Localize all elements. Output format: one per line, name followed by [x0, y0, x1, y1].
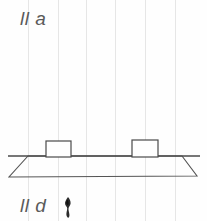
left-block	[46, 141, 71, 157]
technical-sketch	[0, 0, 207, 221]
platform-trapezoid	[9, 156, 197, 177]
label-top-left: ll a	[20, 8, 46, 30]
label-bottom-left: ll d	[20, 195, 46, 217]
right-block	[132, 140, 158, 157]
sketch-page: ll a ll d	[0, 0, 207, 221]
flame-mark-icon	[62, 196, 74, 218]
